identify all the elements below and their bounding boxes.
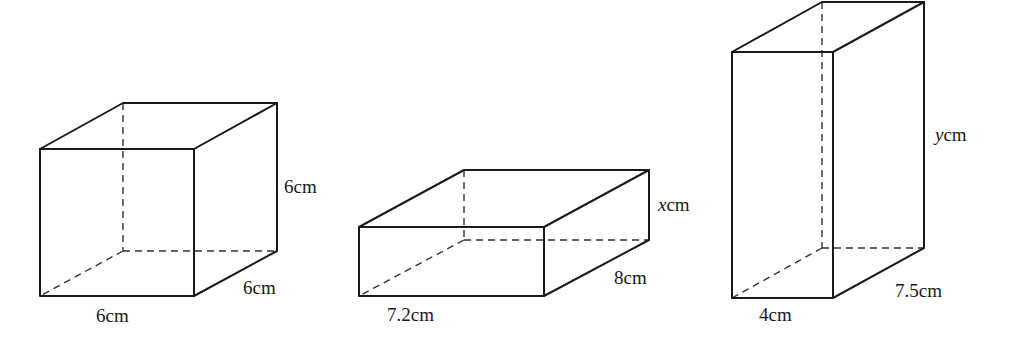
cube-width-label: 6cm [96,306,129,325]
cube-depth-label: 6cm [243,278,276,297]
box-y-figure [732,2,924,298]
box-x-width-label: 7.2cm [387,305,434,324]
box-x-figure [359,170,649,296]
cuboids-diagram [0,0,1017,344]
cube-figure [40,103,277,296]
box-y-height-label: ycm [935,125,967,144]
unit: cm [666,194,689,215]
box-x-depth-label: 8cm [614,268,647,287]
box-y-width-label: 4cm [759,305,792,324]
box-y-depth-label: 7.5cm [895,281,942,300]
cube-height-label: 6cm [284,177,317,196]
box-x-height-label: xcm [658,195,690,214]
unit: cm [943,124,966,145]
